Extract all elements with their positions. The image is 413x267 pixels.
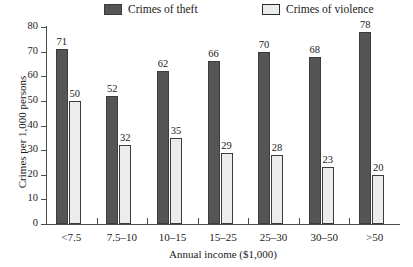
bar-theft [157,71,169,224]
bar-theft [359,32,371,224]
x-axis-tick [147,218,148,224]
bar-value-label: 20 [365,162,391,173]
x-axis-tick [349,218,350,224]
bar-value-label: 50 [62,88,88,99]
bars-layer: 7150<7.552327.5–10623510–15662915–257028… [0,0,413,267]
bar-value-label: 52 [99,83,125,94]
bar-value-label: 23 [315,154,341,165]
bar-violence [170,138,182,224]
x-axis-tick [97,218,98,224]
bar-violence [271,155,283,224]
bar-violence [69,101,81,224]
bar-value-label: 66 [201,48,227,59]
bar-chart-figure: Crimes of theft Crimes of violence 01020… [0,0,413,267]
bar-theft [56,49,68,224]
bar-value-label: 71 [49,36,75,47]
bar-value-label: 35 [163,125,189,136]
bar-theft [106,96,118,224]
x-axis-tick [299,218,300,224]
bar-value-label: 62 [150,58,176,69]
bar-violence [322,167,334,224]
bar-theft [309,57,321,224]
bar-theft [258,52,270,224]
bar-value-label: 28 [264,142,290,153]
bar-violence [221,153,233,224]
bar-violence [372,175,384,224]
bar-value-label: 68 [302,44,328,55]
x-axis-tick [198,218,199,224]
bar-violence [119,145,131,224]
x-axis-tick [248,218,249,224]
bar-value-label: 70 [251,39,277,50]
x-axis-category-label: >50 [340,231,410,243]
bar-value-label: 78 [352,19,378,30]
bar-value-label: 29 [214,140,240,151]
x-axis-title: Annual income ($1,000) [46,248,400,260]
bar-value-label: 32 [112,132,138,143]
